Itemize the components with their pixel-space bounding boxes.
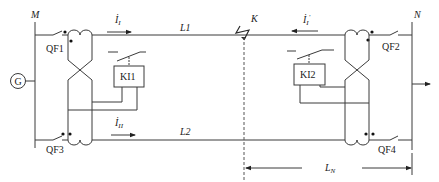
- breaker-qf3-label: QF3: [46, 144, 64, 155]
- right-ct-secondary-wiring: [300, 35, 369, 140]
- relay-ki1: KI1: [108, 52, 146, 87]
- bus-n: N: [412, 9, 430, 150]
- generator: G: [11, 74, 36, 89]
- breaker-qf2-label: QF2: [382, 41, 400, 52]
- generator-label: G: [15, 76, 22, 87]
- current-i2-label: İII: [114, 117, 124, 130]
- fault-k: K: [236, 13, 259, 182]
- relay-ki2: KI2: [287, 50, 334, 85]
- relay-ki1-label: KI1: [120, 71, 136, 82]
- parallel-line-protection-diagram: M G N L1 L2: [0, 0, 439, 182]
- fault-k-label: K: [250, 13, 259, 24]
- bus-m-label: M: [30, 9, 40, 20]
- dimension-ln-label: LN: [324, 162, 336, 175]
- current-i1: İI: [107, 14, 131, 32]
- polarity-dots: [61, 30, 374, 135]
- bus-n-label: N: [413, 9, 422, 20]
- dimension-ln: LN: [246, 153, 412, 175]
- breaker-qf4-label: QF4: [378, 144, 396, 155]
- relay-ki2-label: KI2: [300, 69, 316, 80]
- line-l1-label: L1: [179, 22, 191, 33]
- current-i1-prime: İI′: [292, 13, 318, 31]
- current-i1-label: İI: [114, 14, 121, 27]
- current-i2: İII: [111, 117, 135, 135]
- bus-m: M: [30, 9, 40, 148]
- breaker-qf1-label: QF1: [46, 43, 64, 54]
- line-l2-label: L2: [179, 126, 191, 137]
- current-i1-prime-label: İI′: [302, 13, 311, 27]
- line-l1: L1: [35, 22, 412, 35]
